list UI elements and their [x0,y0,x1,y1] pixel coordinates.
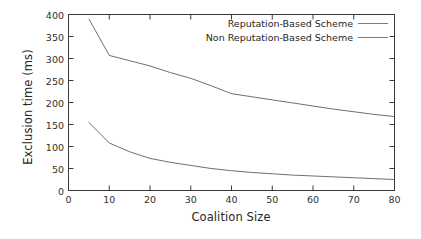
chart-figure: Exclusion time (ms) 05010015020025030035… [0,0,421,239]
legend-label: Reputation-Based Scheme [228,18,353,29]
y-axis-title: Exclusion time (ms) [21,17,35,197]
x-axis-title: Coalition Size [68,210,394,224]
y-tick-label: 50 [36,163,64,174]
x-tick-label: 30 [176,194,206,205]
y-tick-label: 350 [36,31,64,42]
y-tick-label: 100 [36,141,64,152]
y-tick-label: 300 [36,53,64,64]
y-tick-label: 200 [36,97,64,108]
legend-item: Reputation-Based Scheme [196,17,388,29]
chart-legend: Reputation-Based Scheme Non Reputation-B… [196,17,388,45]
x-tick-label: 70 [339,194,369,205]
x-tick-label: 80 [380,194,410,205]
x-tick-label: 60 [298,194,328,205]
y-tick-label: 150 [36,119,64,130]
x-tick-label: 10 [94,194,124,205]
series-line-reputation-based [89,122,395,179]
x-tick-label: 50 [257,194,287,205]
x-tick-label: 20 [135,194,165,205]
x-tick-label-group: 01020304050607080 [0,194,421,210]
legend-line-sample-non-reputation-based [358,37,388,38]
y-tick-label: 400 [36,9,64,20]
y-tick-label: 250 [36,75,64,86]
legend-item: Non Reputation-Based Scheme [196,31,388,43]
legend-line-sample-reputation-based [358,23,388,24]
x-tick-label: 40 [217,194,247,205]
x-tick-label: 0 [54,194,84,205]
legend-label: Non Reputation-Based Scheme [206,32,353,43]
